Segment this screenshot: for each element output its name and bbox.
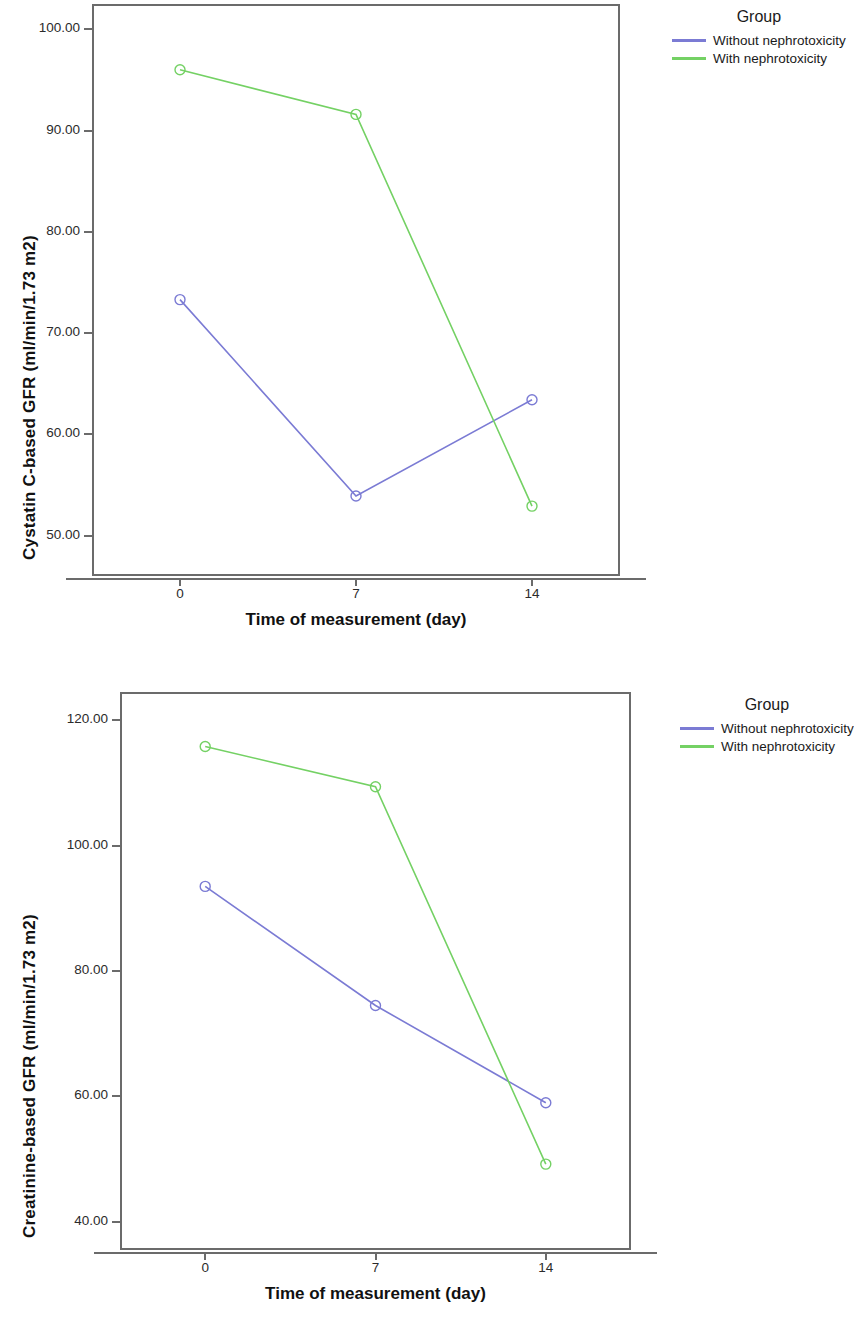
creatinine-chart-block: 120.00100.0080.0060.0040.000714Creatinin… [0, 660, 821, 1321]
legend-title: Group [680, 696, 854, 714]
legend-color-swatch [672, 39, 706, 42]
legend-item[interactable]: With nephrotoxicity [680, 739, 854, 754]
series-line-with-nephrotoxicity [180, 70, 532, 506]
legend-color-swatch [680, 745, 714, 748]
legend-item-label: Without nephrotoxicity [713, 33, 846, 48]
legend-item[interactable]: With nephrotoxicity [672, 51, 846, 66]
legend-item[interactable]: Without nephrotoxicity [672, 33, 846, 48]
plot-series-layer [0, 660, 821, 1321]
cystatin-c-chart-block: 100.0090.0080.0070.0060.0050.000714Cysta… [0, 0, 821, 660]
legend-color-swatch [672, 57, 706, 60]
chart-legend: GroupWithout nephrotoxicityWith nephroto… [672, 8, 846, 69]
legend-item[interactable]: Without nephrotoxicity [680, 721, 854, 736]
chart-legend: GroupWithout nephrotoxicityWith nephroto… [680, 696, 854, 757]
series-line-without-nephrotoxicity [205, 886, 546, 1102]
plot-series-layer [0, 0, 821, 661]
series-line-with-nephrotoxicity [205, 747, 546, 1165]
series-line-without-nephrotoxicity [180, 300, 532, 496]
legend-item-label: With nephrotoxicity [721, 739, 835, 754]
legend-color-swatch [680, 727, 714, 730]
legend-title: Group [672, 8, 846, 26]
legend-item-label: With nephrotoxicity [713, 51, 827, 66]
legend-item-label: Without nephrotoxicity [721, 721, 854, 736]
